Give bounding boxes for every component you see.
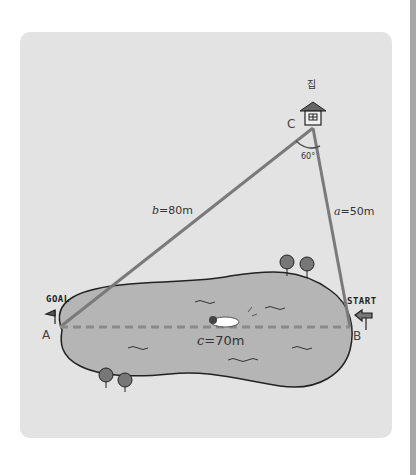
start-sign-icon <box>355 310 372 330</box>
triangle-lake-diagram <box>0 0 416 475</box>
goal-flag-icon <box>46 310 55 324</box>
vertex-a: A <box>42 328 50 342</box>
vertex-c: C <box>287 117 295 131</box>
side-c-value: =70m <box>204 333 244 348</box>
side-c-label: c=70m <box>197 333 244 348</box>
side-a-label: a=50m <box>334 205 375 218</box>
side-b-var: b <box>152 204 159 217</box>
angle-label: 60° <box>301 152 315 161</box>
start-label: START <box>347 296 377 306</box>
side-b-label: b=80m <box>152 204 193 217</box>
side-a-value: =50m <box>341 205 375 218</box>
vertex-b: B <box>353 329 361 343</box>
house-icon <box>300 102 326 125</box>
goal-label: GOAL <box>46 294 70 304</box>
house-label: 집 <box>307 76 316 91</box>
side-b-value: =80m <box>159 204 193 217</box>
